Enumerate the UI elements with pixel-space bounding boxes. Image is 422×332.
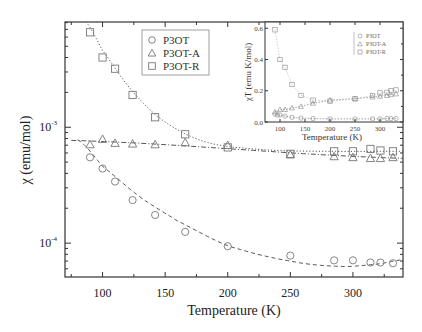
legend-label-p3ot-a: P3OT-A xyxy=(163,47,200,59)
inset-plot-frame xyxy=(265,22,403,122)
data-point-p3ot-a xyxy=(330,152,338,159)
inset-y-tick-label: 0.2 xyxy=(254,87,263,95)
fit-curve-p3ot-a xyxy=(71,140,403,158)
data-point-p3ot-r xyxy=(86,29,93,36)
data-point-p3ot-a xyxy=(111,139,119,146)
fit-curve-p3ot xyxy=(78,140,404,267)
data-point-p3ot-r xyxy=(129,91,136,98)
data-point-p3ot-a xyxy=(349,153,357,160)
data-point-p3ot xyxy=(349,257,356,264)
data-point-p3ot-a xyxy=(286,151,294,158)
figure: 100150200250300 10-410-3 Temperature (K)… xyxy=(0,0,422,332)
data-point-p3ot-a xyxy=(366,154,374,161)
inset-y-tick-label: 0.6 xyxy=(254,25,263,33)
main-x-tick-label: 250 xyxy=(281,286,299,300)
data-point-p3ot-a xyxy=(224,141,232,148)
data-point-p3ot xyxy=(86,154,93,161)
main-x-tick-label: 150 xyxy=(156,286,174,300)
inset-y-tick-label: 0.0 xyxy=(254,119,263,127)
main-legend: P3OTP3OT-AP3OT-R xyxy=(142,30,209,75)
inset-legend-label-p3ot-a: P3OT-A xyxy=(366,41,387,47)
data-point-p3ot-r xyxy=(331,148,338,155)
legend-label-p3ot-r: P3OT-R xyxy=(163,60,200,72)
legend-label-p3ot: P3OT xyxy=(163,34,190,46)
main-y-tick-exponent: -3 xyxy=(51,119,57,127)
main-x-tick-label: 300 xyxy=(344,286,362,300)
data-point-p3ot xyxy=(152,211,159,218)
main-y-axis-label: χ (emu/mol) xyxy=(18,115,34,185)
inset-y-tick-label: 0.4 xyxy=(254,56,263,64)
data-point-p3ot-r xyxy=(99,54,106,61)
data-point-p3ot xyxy=(331,257,338,264)
data-point-p3ot xyxy=(129,197,136,204)
inset-plot: 100150200250300 0.00.20.40.6 Temperature… xyxy=(243,22,403,142)
data-point-p3ot-r xyxy=(377,147,384,154)
main-x-tick-label: 200 xyxy=(219,286,237,300)
data-point-p3ot xyxy=(111,178,118,185)
inset-x-axis-label: Temperature (K) xyxy=(302,132,362,142)
main-x-tick-label: 100 xyxy=(94,286,112,300)
data-point-p3ot xyxy=(377,259,384,266)
data-point-p3ot-a xyxy=(181,138,189,145)
main-y-tick-label: 10-3 xyxy=(39,119,57,134)
main-y-tick-exponent: -4 xyxy=(51,235,57,243)
data-point-p3ot-r xyxy=(182,131,189,138)
main-x-axis-label: Temperature (K) xyxy=(187,303,281,319)
data-point-p3ot xyxy=(182,228,189,235)
inset-y-axis-label: χT (emu K/mol) xyxy=(243,43,253,102)
data-point-p3ot xyxy=(287,252,294,259)
inset-legend-label-p3ot-r: P3OT-R xyxy=(366,49,386,55)
data-point-p3ot-a xyxy=(389,153,397,160)
main-y-tick-label: 10-4 xyxy=(39,235,57,250)
inset-legend-label-p3ot: P3OT xyxy=(366,33,381,39)
inset-x-tick-label: 300 xyxy=(375,125,386,133)
inset-x-tick-label: 100 xyxy=(275,125,286,133)
